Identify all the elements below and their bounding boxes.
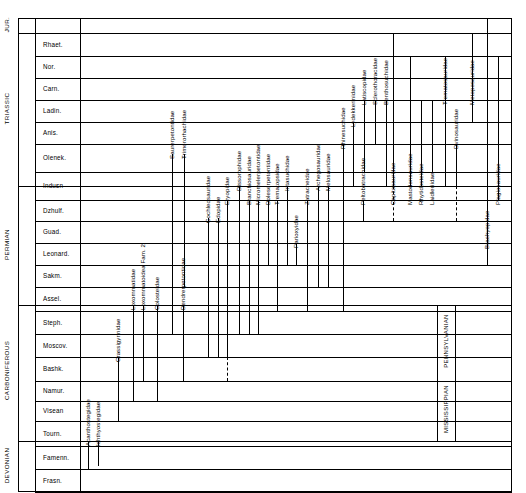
era-label: PERMIAN (3, 216, 10, 273)
taxon-label: Brachyopidae (483, 211, 490, 249)
taxon-range-bar (375, 100, 376, 144)
taxon-range-bar (287, 186, 288, 265)
taxon-range-bar-inferred (456, 186, 457, 221)
stage-label: Famenn. (43, 454, 69, 461)
taxon-range-bar (133, 305, 134, 401)
stage-gridline (35, 221, 512, 222)
taxon-label: Eryopidae (223, 177, 230, 205)
stage-label: Steph. (43, 319, 62, 326)
taxon-label: Zatracheidae (303, 168, 310, 205)
era-boundary-jurassic-triassic (18, 33, 512, 34)
taxon-label: Saurerpetontidae (168, 111, 175, 159)
taxon-label: Trimerorhachidae (180, 110, 187, 159)
taxon-label: Loxommatidae (129, 269, 136, 310)
taxon-range-bar (343, 144, 344, 311)
stage-label: Nor. (43, 63, 55, 70)
taxon-label: Lydekkerinidae (349, 85, 356, 127)
taxon-range-bar (328, 186, 329, 287)
taxon-range-bar (157, 305, 158, 401)
taxon-range-bar (318, 186, 319, 287)
stage-label: Olenek. (43, 154, 66, 161)
taxon-label: Melosauridae (324, 153, 331, 191)
taxon-label: Acanthostegidae (84, 399, 91, 446)
stage-label: Dzhulf. (43, 207, 64, 214)
taxon-label: Doleserpetontidae (264, 154, 271, 205)
stage-label: Sakm. (43, 272, 62, 279)
era-label: JUR. (3, 0, 10, 53)
stage-label: Leonard. (43, 250, 69, 257)
stage-label: Ladin. (43, 107, 61, 114)
taxon-label: Loxommatoidea Fam. 2 (139, 244, 146, 310)
taxon-label: Archegosauridae (314, 143, 321, 191)
era-label: TRIASSIC (3, 80, 10, 137)
stage-gridline (35, 357, 512, 358)
taxon-range-bar (249, 200, 250, 334)
taxon-range-bar (183, 305, 184, 381)
stage-gridline (35, 122, 512, 123)
taxon-label: Dvinosauridae (452, 109, 459, 149)
taxon-label: Mastodonsauridae (406, 153, 413, 205)
stage-label: Tourn. (43, 430, 62, 437)
taxon-label: Edopidae (214, 196, 221, 223)
era-boundary-carboniferous-devonian (18, 441, 512, 442)
taxon-label: Micromelerpetontidae (254, 144, 261, 205)
stage-gridline (35, 287, 512, 288)
taxon-label: Cochleosauridae (204, 176, 211, 223)
taxon-label: Colosteidae (153, 277, 160, 310)
era-label: DEVONIAN (3, 437, 10, 493)
taxon-range-bar (307, 200, 308, 311)
taxon-label: Crassigyrinidae (114, 319, 121, 363)
stage-gridline (35, 243, 512, 244)
taxon-label: Latiscopidae (360, 70, 367, 105)
stratigraphic-range-chart: JUR.TRIASSICPERMIANCARBONIFEROUSDEVONIAN… (0, 0, 526, 493)
taxon-range-bar (218, 218, 219, 357)
taxon-range-bar (456, 144, 457, 186)
stage-label: Moscov. (43, 342, 67, 349)
taxon-label: Peltobatrachidae (359, 158, 366, 205)
taxon-range-bar (239, 186, 240, 334)
stage-gridline (35, 421, 512, 422)
taxon-label: Plagiosauridae (494, 163, 501, 205)
stage-gridline (35, 401, 512, 402)
stage-label: Bashk. (43, 365, 63, 372)
stage-label: Indusn (43, 182, 63, 189)
taxon-label: Laidleriidae (428, 173, 435, 205)
stage-gridline (35, 469, 512, 470)
stage-gridline (35, 311, 512, 312)
taxon-range-bar (386, 100, 387, 186)
stage-label: Guad. (43, 228, 61, 235)
subsystem-label: MISSISSIPPIAN (443, 363, 449, 455)
era-boundary-permian-carboniferous (18, 305, 512, 306)
stage-label: Frasn. (43, 477, 62, 484)
taxon-label: Dendrerpetontidae (179, 258, 186, 310)
taxon-label: Parioxyidae (292, 215, 299, 248)
taxon-label: Branchiosauridae (245, 156, 252, 205)
stage-label: Rhaet. (43, 41, 63, 48)
taxon-range-bar (118, 357, 119, 421)
taxon-range-bar (353, 122, 354, 186)
taxon-label: Capitosauridae (389, 163, 396, 205)
stage-gridline (35, 381, 512, 382)
taxon-range-bar (432, 100, 433, 172)
taxon-range-bar (143, 305, 144, 381)
taxon-label: Metoposauridae (468, 60, 475, 105)
taxon-label: Intasuchidae (283, 155, 290, 191)
taxon-label: Benthosuchidae (382, 60, 389, 105)
taxon-range-bar (258, 200, 259, 334)
taxon-label: Rhytidosteidae (417, 163, 424, 205)
stage-label: Anis. (43, 129, 58, 136)
taxon-label: Dissorophidae (235, 151, 242, 191)
taxon-label: Trematosauridae (441, 58, 448, 105)
taxon-label: Sclerothoracidae (371, 58, 378, 105)
taxon-range-bar-inferred (227, 357, 228, 381)
taxon-label: Ichthyostegidae (94, 402, 101, 446)
stage-label: Carn. (43, 85, 59, 92)
taxon-range-bar (227, 200, 228, 357)
stage-label: Assel. (43, 295, 61, 302)
taxon-range-bar (172, 154, 173, 334)
stage-label: Visean (43, 407, 63, 414)
stage-gridline (35, 446, 512, 447)
taxon-range-bar (277, 200, 278, 311)
stage-gridline (35, 265, 512, 266)
taxon-label: Rhinesuchidae (339, 107, 346, 149)
